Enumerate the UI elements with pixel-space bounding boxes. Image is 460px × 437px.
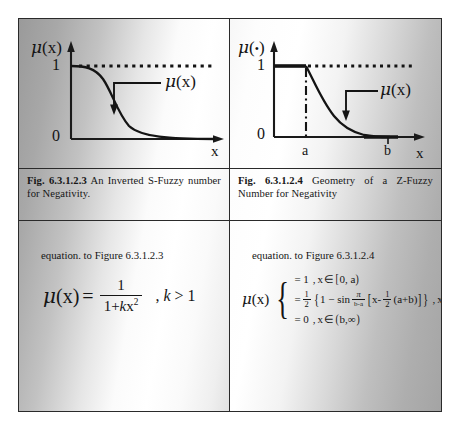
right-chart-xtick-a: a <box>302 143 308 159</box>
piece2-pi-over-bminusa: π b-a <box>352 290 365 308</box>
left-eq-cond-k: k <box>163 287 170 304</box>
annotation-arrowhead <box>342 111 350 122</box>
left-eq-den-exp: 2 <box>134 297 139 307</box>
right-chart-ytick-0: 0 <box>257 125 265 143</box>
right-chart-curve-annotation: μ(x) <box>380 79 411 100</box>
piece2-pi-num: π <box>354 290 362 299</box>
left-figure-caption: Fig. 6.3.1.2.3 An Inverted S-Fuzzy numbe… <box>27 175 221 200</box>
piece2-close-brace: } <box>423 291 428 308</box>
left-chart-curve-annotation: μ(x) <box>165 71 196 92</box>
piecewise-row: = 0 , x ∈ ( b,∞ ) <box>294 311 441 327</box>
left-eq-equals: = <box>82 285 93 308</box>
right-chart-ytick-1: 1 <box>257 56 265 74</box>
left-eq-denominator: 1+kx2 <box>100 295 143 315</box>
piece1-value: = 1 <box>294 273 308 285</box>
piece2-pi-den: b-a <box>352 299 365 309</box>
right-figure-label: Fig. 6.3.1.2.4 <box>238 175 303 186</box>
left-eq-den-one: 1+ <box>104 298 120 314</box>
left-eq-lhs: μ(x) <box>43 284 79 308</box>
piece1-interval-open: [ <box>336 271 339 287</box>
left-eq-cond-rel: > 1 <box>175 287 196 304</box>
left-eq-fraction: 1 1+kx2 <box>100 277 143 315</box>
right-caption-cell: Fig. 6.3.1.2.4 Geometry of a Z-Fuzzy Num… <box>230 169 441 221</box>
piece2-x-term: x- <box>372 293 381 305</box>
piece2-ab-term: (a+b) <box>393 293 417 305</box>
piece3-interval-open: ( <box>336 311 339 327</box>
left-eq-cond-comma: , <box>155 287 159 304</box>
piece2-close-bracket: ] <box>418 291 422 308</box>
piece2-one-half-2: 1 2 <box>383 290 391 308</box>
piece2-half-den: 2 <box>303 299 311 309</box>
annotation-leader-line <box>346 91 378 113</box>
piece2-half2-num: 1 <box>383 290 391 299</box>
piece2-equals: = <box>294 293 300 305</box>
right-chart-x-axis-label: x <box>416 145 424 162</box>
piece2-half-num: 1 <box>303 290 311 299</box>
left-chart-ytick-1: 1 <box>52 56 60 74</box>
y-axis-arrowhead <box>270 41 278 52</box>
piece2-open-bracket: [ <box>368 291 372 308</box>
membership-curve <box>306 66 390 137</box>
left-chart-y-axis-label: μ(x) <box>31 37 62 58</box>
left-equation: μ(x) = 1 1+kx2 , k > 1 <box>43 277 221 315</box>
annotation-leader-line <box>114 83 161 107</box>
piece2-open-brace: { <box>314 291 319 308</box>
piece2-one-minus-sin: 1 − sin <box>320 293 350 305</box>
right-equation-intro: equation. to Figure 6.3.1.2.4 <box>252 249 433 261</box>
piece2-one-half: 1 2 <box>303 290 311 308</box>
left-eq-den-x: x <box>126 298 134 314</box>
table-column-right: μ(•) 1 0 a b x μ(x) Fig. 6.3.1.2.4 Geome… <box>230 19 441 411</box>
right-chart-xtick-b: b <box>384 143 391 159</box>
left-figure-label: Fig. 6.3.1.2.3 <box>27 175 87 186</box>
piecewise-brace: { <box>276 284 289 314</box>
right-chart-y-axis-label: μ(•) <box>238 37 265 58</box>
piece1-member: ∈ <box>324 273 334 286</box>
left-equation-cell: equation. to Figure 6.3.1.2.3 μ(x) = 1 1… <box>19 221 229 411</box>
left-figure-cell: μ(x) 1 0 x μ(x) <box>19 19 229 169</box>
right-equation: μ(x) { = 1 , x ∈ [ 0, a ) <box>242 271 433 327</box>
left-caption-cell: Fig. 6.3.1.2.3 An Inverted S-Fuzzy numbe… <box>19 169 229 221</box>
piece3-member: ∈ <box>324 313 334 326</box>
left-chart-x-axis-label: x <box>211 143 219 160</box>
piece1-interval-close: ) <box>356 271 359 287</box>
right-eq-lhs: μ(x) <box>242 290 269 308</box>
piece2-comma: , <box>433 293 436 305</box>
scanned-page: μ(x) 1 0 x μ(x) Fig. 6.3.1.2.3 An Invert… <box>0 0 460 437</box>
piecewise-row: = 1 2 { 1 − sin π b-a [ <box>294 290 441 308</box>
x-axis-arrowhead <box>414 133 425 141</box>
piece1-comma: , <box>313 273 316 285</box>
right-figure-cell: μ(•) 1 0 a b x μ(x) <box>230 19 441 169</box>
table-column-left: μ(x) 1 0 x μ(x) Fig. 6.3.1.2.3 An Invert… <box>19 19 230 411</box>
y-axis-arrowhead <box>67 41 75 52</box>
right-equation-cell: equation. to Figure 6.3.1.2.4 μ(x) { = 1… <box>230 221 441 411</box>
piecewise-rows: = 1 , x ∈ [ 0, a ) = 1 <box>294 271 441 327</box>
piece3-value: = 0 <box>294 313 308 325</box>
piecewise-row: = 1 , x ∈ [ 0, a ) <box>294 271 441 287</box>
piece3-interval-close: ) <box>356 311 359 327</box>
piece3-var: x <box>318 313 324 325</box>
left-chart-ytick-0: 0 <box>52 127 60 145</box>
piece2-half2-den: 2 <box>383 299 391 309</box>
left-equation-intro: equation. to Figure 6.3.1.2.3 <box>41 249 221 261</box>
piece3-interval: b,∞ <box>339 313 355 325</box>
piece3-comma: , <box>313 313 316 325</box>
annotation-arrowhead <box>110 105 118 116</box>
figure-table: μ(x) 1 0 x μ(x) Fig. 6.3.1.2.3 An Invert… <box>18 18 442 412</box>
piece2-var: x <box>437 293 441 305</box>
piece1-var: x <box>318 273 324 285</box>
left-eq-numerator: 1 <box>112 277 130 295</box>
right-figure-caption: Fig. 6.3.1.2.4 Geometry of a Z-Fuzzy Num… <box>238 175 433 200</box>
piece1-interval: 0, a <box>339 273 355 285</box>
left-eq-condition: , k > 1 <box>155 287 195 305</box>
